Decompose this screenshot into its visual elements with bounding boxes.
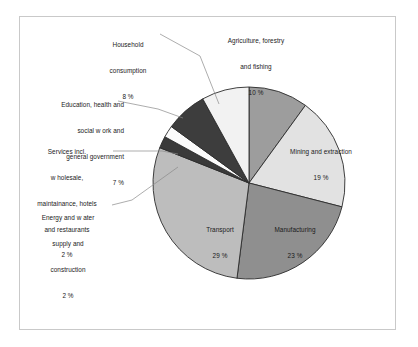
slice-label-transport: Transport 29 %	[186, 209, 254, 278]
slice-label-household-line1: Household	[86, 41, 170, 50]
slice-label-energy-line2: supply and	[16, 240, 120, 249]
slice-value-transport: 29 %	[186, 252, 254, 261]
slice-label-energy: Energy and w ater supply and constructio…	[16, 197, 120, 317]
slice-value-agriculture: 10 %	[196, 89, 316, 98]
slice-value-energy: 2 %	[16, 292, 120, 301]
slice-label-mining: Mining and extraction 19 %	[268, 131, 374, 200]
slice-label-manufacturing-line1: Manufacturing	[258, 226, 332, 235]
slice-value-manufacturing: 23 %	[258, 252, 332, 261]
pie-chart-figure: Household consumption 8 % Agriculture, f…	[0, 0, 418, 347]
slice-label-transport-line1: Transport	[186, 226, 254, 235]
slice-label-services-line2: w holesale,	[10, 174, 124, 183]
slice-label-education-line1: Education, health and	[14, 101, 124, 110]
slice-label-manufacturing: Manufacturing 23 %	[258, 209, 332, 278]
slice-label-mining-line1: Mining and extraction	[268, 148, 374, 157]
slice-label-energy-line1: Energy and w ater	[16, 214, 120, 223]
slice-label-agriculture: Agriculture, forestry and fishing 10 %	[196, 20, 316, 115]
slice-value-mining: 19 %	[268, 174, 374, 183]
slice-label-energy-line3: construction	[16, 266, 120, 275]
slice-label-agriculture-line1: Agriculture, forestry	[196, 37, 316, 46]
slice-label-services-line1: Services incl.	[10, 148, 124, 157]
slice-label-agriculture-line2: and fishing	[196, 63, 316, 72]
slice-label-household-line2: consumption	[86, 67, 170, 76]
